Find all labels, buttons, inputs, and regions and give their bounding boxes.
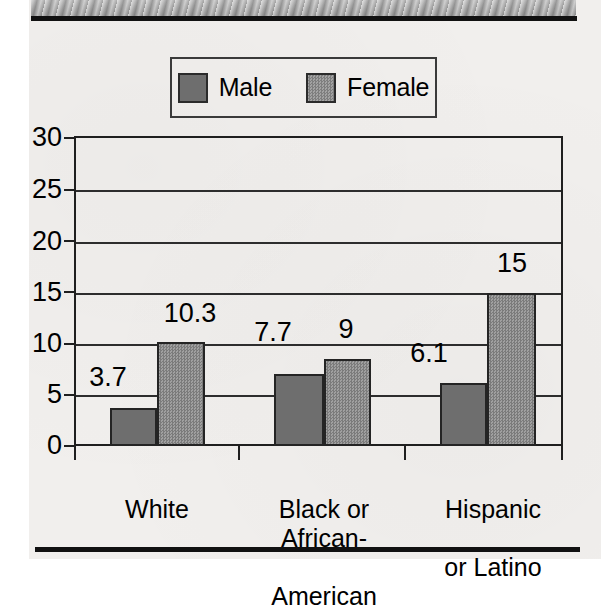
data-label-hispanic-female: 15 xyxy=(487,250,537,277)
y-tick-label-30: 30 xyxy=(4,124,62,151)
chart-legend: Male Female xyxy=(170,57,437,118)
data-label-black-male: 7.7 xyxy=(241,319,305,346)
y-tick-label-5: 5 xyxy=(4,381,62,408)
bottom-black-rule xyxy=(35,547,580,552)
bar-white-female xyxy=(157,342,205,446)
bar-black-male xyxy=(274,374,324,446)
data-label-white-female: 10.3 xyxy=(152,300,228,327)
data-label-black-female: 9 xyxy=(325,316,367,343)
x-tick-mark-sep-1 xyxy=(238,446,240,460)
legend-entry-male: Male xyxy=(178,73,272,103)
category-label-hispanic-line-2: or Latino xyxy=(418,553,568,582)
y-tick-label-25: 25 xyxy=(4,176,62,203)
y-tick-label-20: 20 xyxy=(4,228,62,255)
category-label-black-line-2: American xyxy=(236,582,412,609)
legend-label-female: Female xyxy=(347,75,429,100)
male-swatch-icon xyxy=(178,73,208,103)
category-label-white-line-1: White xyxy=(125,495,189,523)
category-label-black: Black or African- American xyxy=(236,466,412,609)
data-label-hispanic-male: 6.1 xyxy=(398,340,460,367)
x-tick-mark-start xyxy=(74,446,76,460)
gridline-25 xyxy=(76,190,561,192)
plot-area xyxy=(74,136,563,446)
category-label-black-line-1: Black or African- xyxy=(236,495,412,553)
y-tick-label-10: 10 xyxy=(4,330,62,357)
y-tick-label-15: 15 xyxy=(4,279,62,306)
bar-white-male xyxy=(110,408,157,446)
bar-black-female xyxy=(324,359,371,446)
y-tick-label-0: 0 xyxy=(4,432,62,459)
top-banner-strip xyxy=(31,0,576,16)
x-tick-mark-sep-2 xyxy=(404,446,406,460)
gridline-20 xyxy=(76,242,561,244)
female-swatch-icon xyxy=(306,73,336,103)
legend-label-male: Male xyxy=(219,75,272,100)
x-tick-mark-end xyxy=(561,446,563,460)
category-label-white: White xyxy=(84,466,230,524)
bar-hispanic-male xyxy=(440,383,487,446)
legend-entry-female: Female xyxy=(306,73,429,103)
category-label-hispanic: Hispanic or Latino xyxy=(418,466,568,609)
top-black-rule xyxy=(31,16,577,21)
category-label-hispanic-line-1: Hispanic xyxy=(418,495,568,524)
data-label-white-male: 3.7 xyxy=(78,364,138,391)
bar-hispanic-female xyxy=(487,293,536,446)
